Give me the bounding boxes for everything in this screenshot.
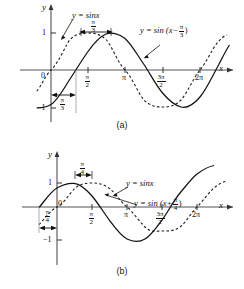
figure-panel-a: y = sinx y = sin (x−π3) π3 π3 y x 1 −1 0… (0, 0, 244, 145)
x-tick-label-pi-2-a: π2 (84, 74, 91, 89)
x-tick-label-0-b: 0 (58, 200, 62, 208)
x-axis-arrow-a (227, 68, 233, 73)
leaders-b (104, 187, 137, 205)
y-axis-arrow-a (49, 4, 54, 10)
figure-panel-b: y = sinx y = sin (x+π4) π4 π4 y x 1 −1 0… (0, 145, 244, 289)
panel-caption-b: (b) (0, 266, 244, 276)
curve-label-sinx-b: y = sinx (126, 179, 153, 188)
measure-bottom-label-a: π3 (59, 97, 66, 112)
measure-top-label-b: π4 (79, 161, 86, 176)
label-fraction-pi-4-b: π4 (173, 197, 179, 212)
leader-sinx-a (62, 19, 73, 38)
panel-caption-a: (a) (0, 120, 244, 130)
x-axis-arrow-b (227, 205, 233, 210)
y-axis-label-b: y (48, 149, 52, 159)
x-tick-label-0-a: 0 (41, 72, 45, 80)
y-tick-label-neg1-b: −1 (43, 236, 52, 244)
curve-sin-x-b (39, 181, 226, 231)
y-tick-label-1-a: 1 (42, 29, 46, 37)
y-tick-label-1-b: 1 (48, 179, 52, 187)
measure-bottom-arrow-right-a (70, 93, 76, 97)
leader-shift-b (106, 195, 137, 205)
y-axis-arrow-b (55, 151, 60, 157)
measure-top-arrow-right-b (86, 173, 92, 177)
x-tick-label-2pi-b: 2π (192, 211, 200, 219)
label-fraction-pi-3-a: π3 (179, 24, 185, 39)
measure-top-label-a: π3 (90, 19, 97, 34)
x-tick-label-pi-2-b: π2 (88, 211, 95, 226)
x-tick-label-pi-b: π (124, 211, 128, 219)
curve-sin-x-plus-pi4-b (39, 166, 214, 242)
curve-label-shifted-a: y = sin (x−π3) (140, 24, 188, 39)
leader-shift-arrow-a (144, 55, 149, 58)
measure-left-arrow-right-b (51, 226, 57, 230)
x-tick-label-3pi-2-a: 3π2 (156, 74, 166, 89)
x-axis-label-b: x (219, 200, 223, 210)
x-tick-label-pi-a: π (122, 74, 126, 82)
y-tick-label-neg1-a: −1 (37, 104, 46, 112)
measure-bottom-arrow-left-a (51, 93, 57, 97)
x-tick-label-2pi-a: 2π (195, 74, 203, 82)
measure-left-label-b: π4 (44, 209, 51, 224)
x-axis-label-a: x (219, 63, 223, 73)
x-tick-label-3pi-2-b: 3π2 (155, 211, 165, 226)
measure-left-arrow-left-b (39, 226, 45, 230)
y-axis-label-a: y (42, 2, 46, 12)
